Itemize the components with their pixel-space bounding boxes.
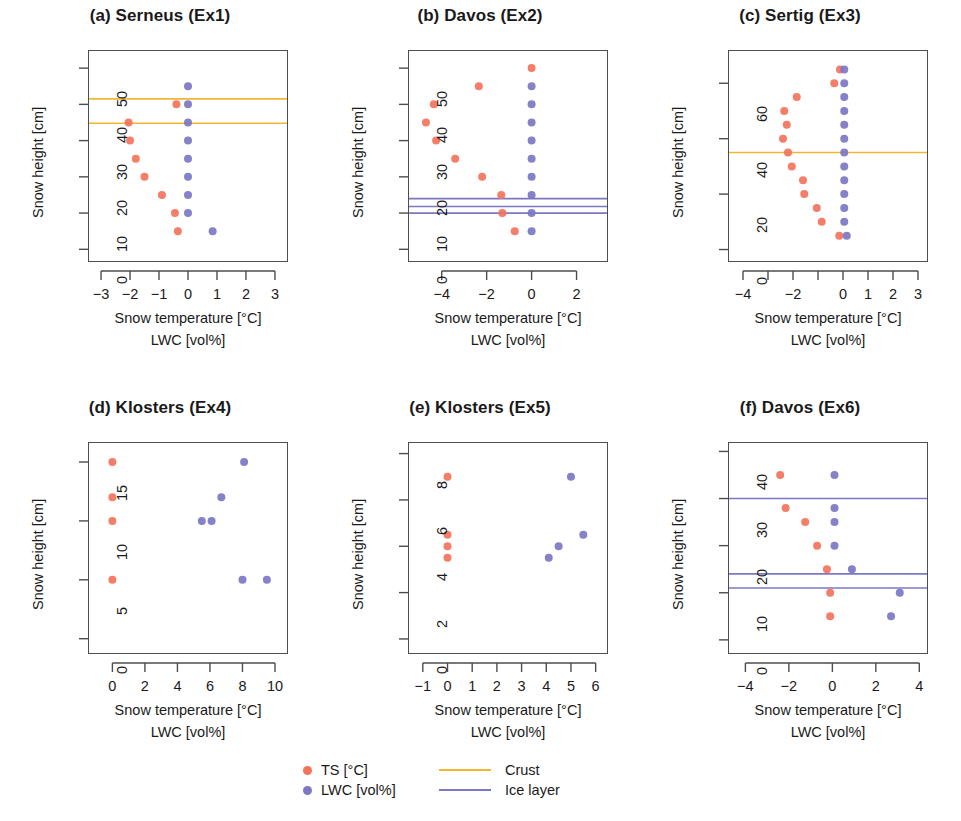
ts-point-c-8: [799, 176, 807, 184]
x-tick-label-c-2: −2: [773, 286, 813, 302]
x-axis-label-line2-e: LWC [vol%]: [368, 724, 648, 740]
ts-point-c-2: [793, 93, 801, 101]
lwc-point-b-6: [528, 191, 536, 199]
y-tick-label-a-1: 10: [114, 224, 130, 264]
x-tick-label-d-5: 10: [255, 678, 295, 694]
x-tick-label-f-3: 2: [856, 678, 896, 694]
lwc-point-a-6: [184, 191, 192, 199]
y-tick-label-a-3: 30: [114, 152, 130, 192]
lwc-point-b-3: [528, 137, 536, 145]
lwc-point-d-4: [238, 576, 246, 584]
ts-point-c-10: [813, 204, 821, 212]
x-tick-label-c-7: 3: [898, 286, 938, 302]
ts-point-b-0: [528, 64, 536, 72]
ts-point-a-6: [171, 209, 179, 217]
ts-point-a-3: [132, 155, 140, 163]
legend-dot-lwc: [303, 786, 312, 795]
y-tick-label-d-2: 10: [114, 532, 130, 572]
lwc-point-a-1: [184, 100, 192, 108]
lwc-point-d-1: [217, 493, 225, 501]
legend-dot-ts: [303, 766, 312, 775]
lwc-point-b-5: [528, 173, 536, 181]
panel-a: (a) Serneus (Ex1)01020304050Snow height …: [0, 0, 320, 390]
ts-point-c-6: [784, 149, 792, 157]
y-tick-label-d-1: 5: [114, 591, 130, 631]
y-tick-label-b-2: 20: [434, 188, 450, 228]
legend-line-crust: [439, 769, 491, 772]
lwc-point-b-8: [528, 227, 536, 235]
lwc-point-c-12: [843, 232, 851, 240]
x-axis-label-line1-c: Snow temperature [°C]: [688, 310, 961, 326]
y-tick-label-e-1: 2: [434, 604, 450, 644]
x-axis-label-line1-b: Snow temperature [°C]: [368, 310, 648, 326]
y-tick-label-f-1: 10: [754, 604, 770, 644]
lwc-point-f-5: [896, 589, 904, 597]
y-tick-label-e-3: 6: [434, 511, 450, 551]
panel-e: (e) Klosters (Ex5)02468Snow height [cm]−…: [320, 392, 640, 782]
legend-label-1: LWC [vol%]: [321, 782, 439, 798]
lwc-point-a-0: [184, 82, 192, 90]
lwc-point-f-2: [831, 518, 839, 526]
lwc-point-f-6: [887, 612, 895, 620]
y-tick-label-b-1: 10: [434, 224, 450, 264]
y-tick-label-f-3: 30: [754, 510, 770, 550]
lwc-point-b-2: [528, 118, 536, 126]
ts-point-f-6: [826, 612, 834, 620]
lwc-point-c-2: [840, 93, 848, 101]
ts-point-d-0: [108, 458, 116, 466]
x-axis-label-line1-e: Snow temperature [°C]: [368, 702, 648, 718]
ts-point-c-3: [780, 107, 788, 115]
lwc-point-b-0: [528, 82, 536, 90]
ts-point-c-9: [800, 190, 808, 198]
lwc-point-e-0: [567, 473, 575, 481]
ts-point-f-1: [782, 504, 790, 512]
lwc-point-d-2: [198, 517, 206, 525]
y-tick-label-c-1: 20: [754, 205, 770, 245]
y-axis-label-b: Snow height [cm]: [350, 107, 366, 218]
ts-point-d-2: [108, 517, 116, 525]
lwc-point-a-4: [184, 155, 192, 163]
ts-point-b-1: [475, 82, 483, 90]
x-tick-label-f-2: 0: [812, 678, 852, 694]
x-axis-label-line2-d: LWC [vol%]: [48, 724, 328, 740]
lwc-point-c-6: [840, 149, 848, 157]
lwc-point-c-10: [840, 204, 848, 212]
ts-point-c-12: [835, 232, 843, 240]
lwc-point-c-11: [840, 218, 848, 226]
lwc-point-a-7: [184, 209, 192, 217]
y-tick-label-f-4: 40: [754, 462, 770, 502]
ts-point-b-7: [497, 191, 505, 199]
figure-legend: TS [°C]CrustLWC [vol%]Ice layer: [0, 762, 961, 820]
x-tick-label-f-4: 4: [899, 678, 939, 694]
x-axis-label-line2-c: LWC [vol%]: [688, 332, 961, 348]
lwc-point-e-2: [555, 542, 563, 550]
ts-point-b-5: [451, 155, 459, 163]
lwc-point-f-1: [831, 504, 839, 512]
y-tick-label-b-5: 50: [434, 79, 450, 119]
lwc-point-d-0: [240, 458, 248, 466]
ts-point-c-11: [818, 218, 826, 226]
lwc-point-a-3: [184, 137, 192, 145]
lwc-point-c-7: [840, 162, 848, 170]
ts-point-a-7: [174, 227, 182, 235]
lwc-point-d-3: [208, 517, 216, 525]
legend-line-ice-layer: [439, 789, 491, 792]
y-axis-label-f: Snow height [cm]: [670, 499, 686, 610]
y-axis-label-a: Snow height [cm]: [30, 107, 46, 218]
y-tick-label-c-3: 60: [754, 94, 770, 134]
lwc-point-f-0: [831, 471, 839, 479]
y-axis-label-e: Snow height [cm]: [350, 499, 366, 610]
legend-label-0: TS [°C]: [321, 762, 439, 778]
lwc-point-a-2: [184, 118, 192, 126]
snow-profile-figure: (a) Serneus (Ex1)01020304050Snow height …: [0, 0, 961, 821]
lwc-point-a-5: [184, 173, 192, 181]
lwc-point-f-3: [831, 542, 839, 550]
x-tick-label-b-3: 2: [557, 286, 597, 302]
lwc-point-c-8: [840, 176, 848, 184]
ts-point-f-4: [823, 565, 831, 573]
x-axis-label-line1-f: Snow temperature [°C]: [688, 702, 961, 718]
x-tick-label-f-1: −2: [769, 678, 809, 694]
panel-d: (d) Klosters (Ex4)051015Snow height [cm]…: [0, 392, 320, 782]
y-tick-label-e-4: 8: [434, 465, 450, 505]
y-axis-label-d: Snow height [cm]: [30, 499, 46, 610]
